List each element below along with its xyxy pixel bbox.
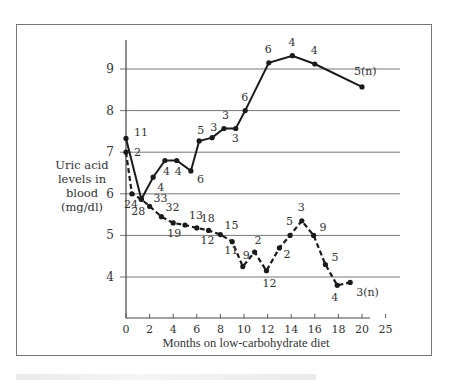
- data-point: [299, 218, 304, 223]
- data-point: [348, 280, 353, 285]
- data-point: [311, 233, 316, 238]
- x-tick-label: 6: [193, 323, 200, 336]
- point-label: 5(n): [354, 65, 377, 78]
- data-point: [123, 150, 128, 155]
- data-point: [240, 264, 245, 269]
- data-point: [218, 232, 223, 237]
- point-label: 12: [201, 234, 215, 247]
- point-label: 3: [232, 132, 239, 145]
- data-point: [277, 245, 282, 250]
- x-tick-label: 20: [355, 323, 369, 336]
- y-axis-label-line: (mg/dl): [44, 200, 120, 214]
- point-label: 6: [197, 173, 204, 186]
- data-point: [162, 158, 167, 163]
- point-label: 18: [201, 212, 215, 225]
- x-tick-label: 10: [237, 323, 251, 336]
- x-tick-label: 16: [308, 323, 322, 336]
- point-label: 2: [283, 248, 290, 261]
- point-label: 12: [262, 277, 276, 290]
- point-label: 11: [224, 244, 238, 257]
- x-tick-label: 25: [379, 323, 393, 336]
- point-label: 5: [286, 215, 293, 228]
- data-point: [129, 191, 134, 196]
- point-label: 6: [241, 91, 248, 104]
- x-tick-label: 12: [261, 323, 275, 336]
- data-point: [335, 283, 340, 288]
- y-axis-label: Uric acid levels in blood (mg/dl): [44, 158, 120, 214]
- data-point: [151, 175, 156, 180]
- point-label: 9: [243, 249, 250, 262]
- point-label: 4: [163, 165, 170, 178]
- point-label: 5: [331, 251, 338, 264]
- x-tick-label: 18: [331, 323, 345, 336]
- data-point: [206, 228, 211, 233]
- point-label: 15: [224, 219, 238, 232]
- point-label: 32: [165, 201, 179, 214]
- data-point: [312, 61, 317, 66]
- data-point: [159, 214, 164, 219]
- data-point: [359, 84, 364, 89]
- data-point: [243, 108, 248, 113]
- point-label: 3(n): [356, 286, 379, 299]
- data-point: [174, 158, 179, 163]
- point-label: 28: [131, 205, 145, 218]
- x-tick-label: 8: [217, 323, 224, 336]
- x-tick-label: 4: [170, 323, 177, 336]
- data-point: [287, 233, 292, 238]
- y-tick-label: 4: [106, 270, 114, 284]
- point-label: 5: [197, 124, 204, 137]
- point-label: 4: [288, 36, 295, 49]
- point-label: 2: [255, 234, 262, 247]
- data-point: [139, 197, 144, 202]
- y-axis-label-line: Uric acid: [44, 158, 120, 172]
- data-point: [266, 60, 271, 65]
- y-axis-label-line: levels in: [44, 172, 120, 186]
- point-label: 6: [265, 43, 272, 56]
- data-point: [147, 204, 152, 209]
- data-point: [252, 249, 257, 254]
- data-point: [188, 168, 193, 173]
- x-tick-label: 14: [284, 323, 298, 336]
- data-point: [323, 262, 328, 267]
- point-label: 3: [222, 109, 229, 122]
- solid-series-line: [126, 56, 362, 200]
- point-label: 4: [175, 165, 182, 178]
- point-label: 9: [320, 221, 327, 234]
- x-tick-label: 0: [123, 323, 130, 336]
- y-tick-label: 5: [106, 228, 114, 242]
- point-label: 19: [167, 227, 181, 240]
- point-label: 3: [210, 121, 217, 134]
- x-axis-label: Months on low-carbohydrate diet: [126, 336, 366, 351]
- data-point: [194, 225, 199, 230]
- point-label: 2: [134, 146, 141, 159]
- y-tick-label: 8: [106, 104, 114, 118]
- data-point: [210, 135, 215, 140]
- y-tick-label: 9: [106, 62, 114, 76]
- data-point: [233, 126, 238, 131]
- data-point: [182, 222, 187, 227]
- x-tick-label: 2: [146, 323, 153, 336]
- data-point: [290, 53, 295, 58]
- data-point: [264, 268, 269, 273]
- y-axis-label-line: blood: [44, 186, 120, 200]
- point-label: 4: [331, 291, 338, 304]
- data-point: [171, 220, 176, 225]
- point-label: 3: [298, 201, 305, 214]
- point-label: 4: [311, 44, 318, 57]
- data-point: [197, 138, 202, 143]
- caption-remnant: [16, 374, 316, 380]
- data-point: [221, 126, 226, 131]
- point-label: 11: [134, 126, 148, 139]
- data-point: [123, 136, 128, 141]
